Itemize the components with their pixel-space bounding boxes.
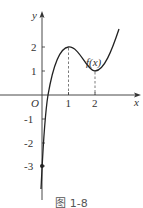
y-axis-label: y xyxy=(31,9,37,21)
x-axis-label: x xyxy=(133,96,139,108)
y-tick-label-neg2: -2 xyxy=(24,137,33,149)
y-intercept-point xyxy=(40,164,44,168)
origin-label: O xyxy=(31,97,39,109)
y-tick-label-neg1: -1 xyxy=(24,113,33,125)
y-tick-label-neg3: -3 xyxy=(24,160,34,172)
curve-label: f(x) xyxy=(86,56,102,69)
x-tick-label-1: 1 xyxy=(66,97,72,109)
function-graph: y x O f(x) 1 2 2 1 -1 -2 -3 xyxy=(0,0,143,208)
function-curve xyxy=(41,29,119,189)
x-tick-label-2: 2 xyxy=(92,97,98,109)
y-tick-label-2: 2 xyxy=(31,41,37,53)
figure-caption: 图 1-8 xyxy=(0,198,143,208)
y-tick-label-1: 1 xyxy=(31,65,37,77)
